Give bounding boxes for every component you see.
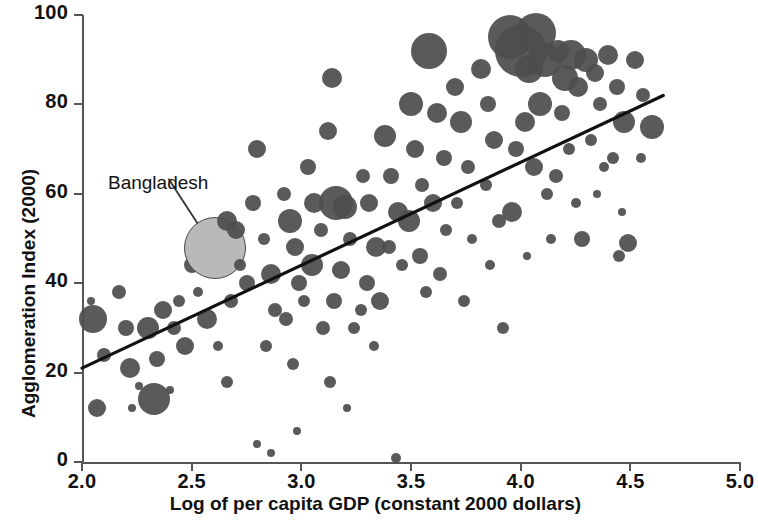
annotation-label-bangladesh: Bangladesh — [108, 172, 208, 194]
